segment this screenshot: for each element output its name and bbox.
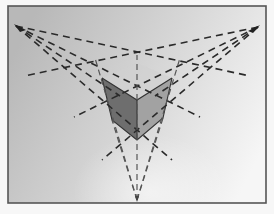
perspective-drawing-photo (0, 0, 274, 214)
